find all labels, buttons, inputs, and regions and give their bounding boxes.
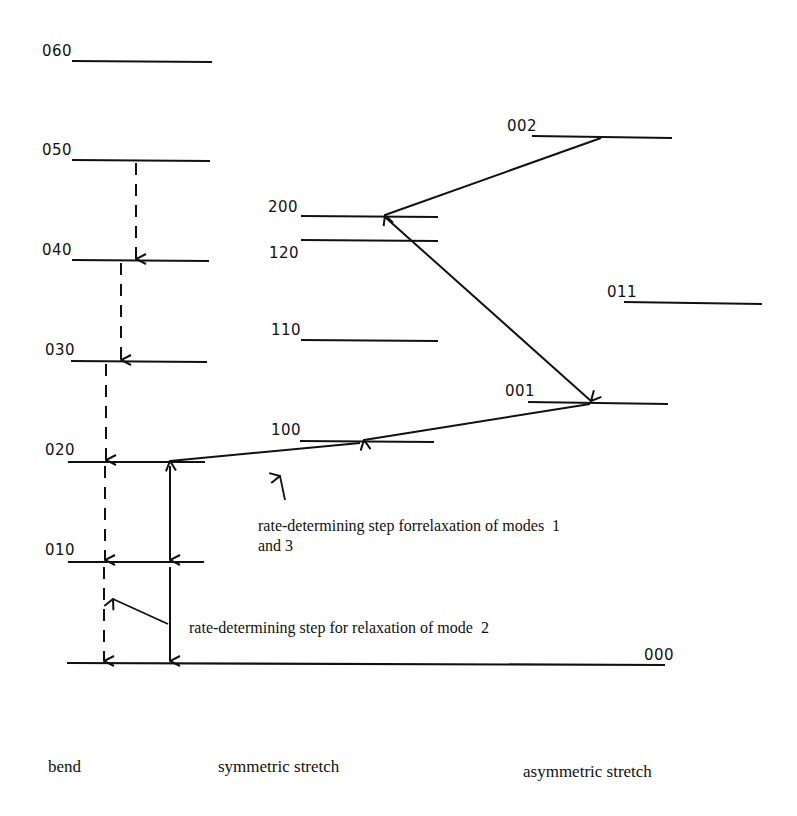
level-060-label: 060	[42, 42, 72, 60]
level-110-line	[301, 340, 438, 341]
asymmetric-stretch-levels: 002 011 001	[505, 117, 762, 404]
level-002-label: 002	[507, 117, 537, 135]
level-030-label: 030	[45, 341, 75, 359]
level-200-line	[301, 216, 438, 217]
level-110-label: 110	[271, 321, 301, 339]
level-001-line	[528, 402, 668, 404]
level-001-label: 001	[505, 382, 535, 400]
level-040-label: 040	[42, 241, 72, 259]
level-120-label: 120	[269, 244, 299, 262]
symmetric-stretch-levels: 200 120 110 100	[268, 198, 438, 442]
column-label-asymmetric-stretch: asymmetric stretch	[523, 762, 652, 781]
transition-100-to-020	[170, 443, 360, 461]
level-120-line	[301, 240, 438, 241]
level-011-label: 011	[607, 283, 637, 301]
pointer-modes-1-3	[280, 476, 285, 500]
energy-level-diagram: 060 050 040 030 020 010 000 200 120 110 …	[0, 0, 797, 816]
dashed-transitions	[104, 163, 136, 661]
level-050-line	[72, 160, 210, 161]
bend-levels: 060 050 040 030 020 010 000	[42, 42, 674, 665]
transition-002-to-200	[385, 138, 601, 215]
level-010-label: 010	[45, 541, 75, 559]
annotation-modes-1-3-line1: rate-determining step forrelaxation of m…	[258, 517, 560, 535]
level-100-label: 100	[271, 421, 301, 439]
level-040-line	[72, 260, 209, 261]
annotation-modes-1-3-line2: and 3	[258, 537, 293, 554]
level-000-line	[67, 663, 665, 665]
column-label-bend: bend	[48, 757, 82, 776]
pointer-mode-2	[113, 599, 168, 624]
transition-001-to-100	[364, 404, 590, 440]
level-002-line	[532, 136, 672, 138]
level-200-label: 200	[268, 198, 298, 216]
transition-200-to-001	[385, 217, 591, 401]
level-100-line	[300, 441, 434, 442]
level-060-line	[72, 61, 212, 62]
level-030-line	[71, 361, 207, 362]
level-011-line	[624, 302, 762, 304]
column-label-symmetric-stretch: symmetric stretch	[218, 757, 340, 776]
annotation-mode-2: rate-determining step for relaxation of …	[189, 619, 489, 637]
level-000-label: 000	[644, 646, 674, 664]
solid-transitions	[170, 138, 601, 661]
level-050-label: 050	[42, 141, 72, 159]
level-020-label: 020	[45, 441, 75, 459]
